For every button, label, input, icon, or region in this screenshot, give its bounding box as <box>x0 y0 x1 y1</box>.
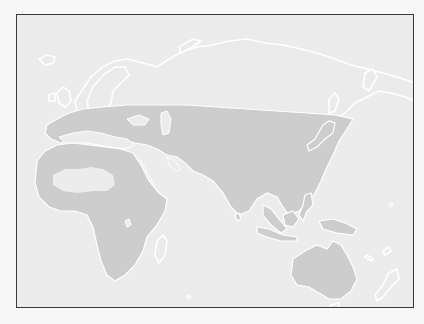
sahara-unshaded <box>53 167 115 193</box>
range-map <box>17 15 414 308</box>
indian-ocean-island <box>187 295 191 299</box>
british-isles <box>57 87 71 107</box>
ireland <box>49 93 55 101</box>
pacific-island <box>389 203 393 207</box>
map-frame <box>16 14 414 308</box>
